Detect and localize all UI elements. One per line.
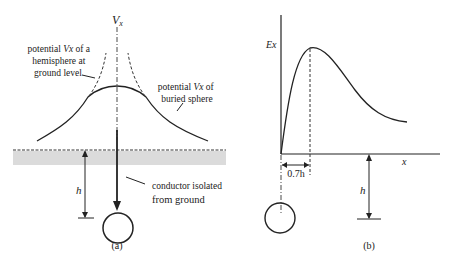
vx-axis-label: Vx (112, 13, 123, 28)
sphere-leader (177, 103, 183, 111)
offset-label: 0.7h (287, 168, 305, 179)
depth-label-a: h (76, 184, 82, 196)
conductor-annotation: conductor isolated from ground (152, 181, 224, 205)
x-axis-label: x (401, 156, 407, 167)
buried-sphere-a (103, 213, 133, 243)
hemisphere-leader (82, 75, 95, 78)
hemisphere-potential-left (89, 53, 106, 96)
depth-b-arrow-up-icon (366, 154, 372, 161)
y-axis-label: Ex (265, 39, 277, 50)
field-strength-curve (281, 48, 407, 154)
depth-arrow-down-icon (82, 212, 88, 218)
buried-sphere-b (265, 203, 295, 233)
diagram-canvas: Vx potential Vx of a hemisphere at groun… (0, 0, 449, 263)
conductor-arrowhead-icon (113, 201, 121, 211)
panel-a: Vx potential Vx of a hemisphere at groun… (13, 13, 226, 252)
offset-arrow-left-icon (282, 162, 287, 168)
caption-b: (b) (363, 240, 375, 252)
hemisphere-annotation: potential Vx of a hemisphere at ground l… (28, 44, 93, 78)
depth-b-arrow-down-icon (366, 213, 372, 219)
conductor-leader (126, 177, 145, 184)
ground-band (13, 150, 226, 164)
hemisphere-potential-right (128, 53, 145, 96)
sphere-annotation: potential Vx of buried sphere (158, 82, 216, 104)
depth-label-b: h (360, 184, 366, 196)
depth-arrow-up-icon (82, 150, 88, 157)
panel-b: Ex x 0.7h h (b) (265, 15, 440, 252)
caption-a: (a) (111, 240, 122, 252)
offset-arrow-right-icon (304, 162, 309, 168)
